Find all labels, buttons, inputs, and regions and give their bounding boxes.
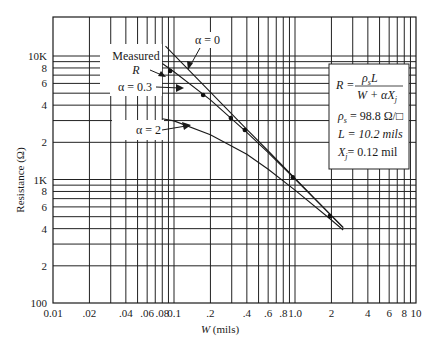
svg-text:2: 2 — [42, 136, 48, 148]
svg-text:4: 4 — [42, 223, 48, 235]
svg-text:4: 4 — [42, 99, 48, 111]
svg-text:8: 8 — [402, 307, 408, 319]
measured-point — [328, 214, 333, 219]
svg-text:α = 2: α = 2 — [136, 123, 161, 137]
svg-text:0.1: 0.1 — [167, 307, 181, 319]
svg-text:8: 8 — [42, 185, 48, 197]
x-axis-label: W (mils) — [201, 323, 240, 336]
measured-point — [243, 128, 248, 133]
svg-text:1K: 1K — [34, 174, 48, 186]
svg-text:.04: .04 — [119, 307, 133, 319]
arrow-icon — [176, 84, 184, 92]
svg-text:α = 0: α = 0 — [195, 33, 220, 47]
svg-text:.8: .8 — [279, 307, 288, 319]
resistance-vs-width-chart: 0.01.02.04.06.080.1.2.4.6.81.02468101002… — [0, 0, 441, 349]
svg-text:6: 6 — [386, 307, 392, 319]
svg-text:10: 10 — [411, 307, 423, 319]
svg-text:.06: .06 — [140, 307, 154, 319]
svg-text:α = 0.3: α = 0.3 — [118, 80, 152, 94]
measured-point — [229, 116, 234, 121]
y-axis-label: Resistance (Ω) — [14, 147, 27, 213]
svg-text:R: R — [131, 63, 140, 77]
svg-text:100: 100 — [31, 297, 48, 309]
measured-points — [168, 69, 332, 219]
svg-text:Measured: Measured — [112, 49, 159, 63]
svg-text:2: 2 — [329, 307, 335, 319]
svg-text:1.0: 1.0 — [288, 307, 302, 319]
svg-text:.02: .02 — [83, 307, 97, 319]
measured-point — [168, 69, 173, 74]
curves — [162, 46, 343, 230]
svg-text:W + αXj: W + αXj — [357, 88, 398, 104]
svg-text:.2: .2 — [206, 307, 214, 319]
svg-text:ρs = 98.8 Ω/□: ρs = 98.8 Ω/□ — [337, 109, 403, 125]
svg-text:2: 2 — [42, 260, 48, 272]
svg-text:6: 6 — [42, 201, 48, 213]
arrow-icon — [182, 122, 191, 130]
svg-text:.6: .6 — [264, 307, 273, 319]
svg-text:.4: .4 — [243, 307, 252, 319]
svg-text:10K: 10K — [28, 50, 47, 62]
svg-text:L = 10.2 mils: L = 10.2 mils — [337, 127, 403, 141]
svg-text:4: 4 — [365, 307, 371, 319]
svg-text:8: 8 — [42, 62, 48, 74]
svg-text:6: 6 — [42, 77, 48, 89]
measured-point — [291, 175, 296, 180]
formula-lhs: R = — [335, 78, 354, 92]
measured-point — [201, 93, 206, 98]
curve-03 — [162, 64, 343, 228]
